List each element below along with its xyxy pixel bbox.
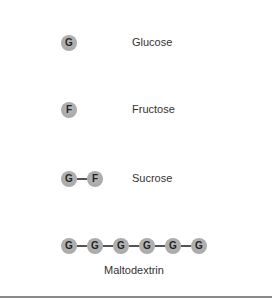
unit-letter: G — [65, 38, 73, 48]
glycosidic-bond — [181, 245, 191, 247]
unit-letter: G — [143, 241, 151, 251]
unit-letter: G — [195, 241, 203, 251]
maltodextrin-unit-4: G — [139, 238, 155, 254]
unit-letter: G — [65, 174, 73, 184]
unit-letter: F — [92, 174, 98, 184]
glycosidic-bond — [77, 178, 87, 180]
maltodextrin-unit-6: G — [191, 238, 207, 254]
fructose-unit: F — [61, 102, 77, 118]
glucose-label: Glucose — [132, 36, 172, 48]
unit-letter: F — [66, 105, 72, 115]
unit-letter: G — [117, 241, 125, 251]
sucrose-label: Sucrose — [132, 172, 172, 184]
unit-letter: G — [91, 241, 99, 251]
maltodextrin-unit-2: G — [87, 238, 103, 254]
glycosidic-bond — [129, 245, 139, 247]
unit-letter: G — [65, 241, 73, 251]
unit-letter: G — [169, 241, 177, 251]
bottom-divider — [0, 296, 272, 298]
sucrose-fructose-unit: F — [87, 171, 103, 187]
maltodextrin-unit-5: G — [165, 238, 181, 254]
glycosidic-bond — [103, 245, 113, 247]
maltodextrin-unit-3: G — [113, 238, 129, 254]
glucose-unit: G — [61, 35, 77, 51]
glycosidic-bond — [155, 245, 165, 247]
fructose-label: Fructose — [132, 103, 175, 115]
maltodextrin-label: Maltodextrin — [104, 264, 164, 276]
maltodextrin-unit-1: G — [61, 238, 77, 254]
glycosidic-bond — [77, 245, 87, 247]
sucrose-glucose-unit: G — [61, 171, 77, 187]
